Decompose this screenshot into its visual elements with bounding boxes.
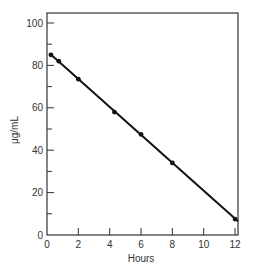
data-point xyxy=(76,77,81,82)
data-point xyxy=(56,59,61,64)
x-axis: 024681012 xyxy=(44,228,241,250)
y-tick-label: 60 xyxy=(32,102,44,113)
data-point xyxy=(49,52,54,57)
x-tick-label: 0 xyxy=(44,239,50,250)
x-tick-label: 12 xyxy=(229,239,241,250)
x-tick-label: 10 xyxy=(198,239,210,250)
x-tick-label: 6 xyxy=(138,239,144,250)
plot-frame xyxy=(47,13,238,235)
y-axis: 020406080100 xyxy=(26,18,54,241)
y-tick-label: 80 xyxy=(32,60,44,71)
plot-border xyxy=(47,13,238,235)
x-tick-label: 2 xyxy=(76,239,82,250)
data-point xyxy=(170,161,175,166)
line-chart: 020406080100 024681012 Hours μg/mL xyxy=(0,0,255,271)
y-axis-label: μg/mL xyxy=(9,116,20,144)
y-tick-label: 40 xyxy=(32,145,44,156)
y-tick-label: 100 xyxy=(26,18,43,29)
y-tick-label: 0 xyxy=(37,230,43,241)
data-series xyxy=(49,52,238,221)
data-point xyxy=(112,110,117,115)
x-tick-label: 4 xyxy=(107,239,113,250)
y-tick-label: 20 xyxy=(32,187,44,198)
data-point xyxy=(233,217,238,222)
x-axis-label: Hours xyxy=(128,253,155,264)
data-point xyxy=(139,132,144,137)
x-tick-label: 8 xyxy=(170,239,176,250)
